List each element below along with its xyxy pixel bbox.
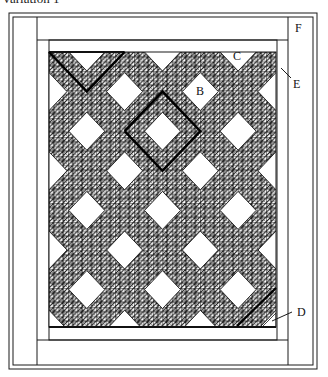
quilt-center	[31, 33, 294, 348]
label-e-leader-line	[281, 68, 291, 78]
label-c: C	[233, 49, 241, 63]
quilt-diagram: BCDEF	[0, 0, 328, 377]
label-d: D	[297, 305, 306, 319]
label-f: F	[295, 21, 302, 35]
label-b: B	[196, 84, 204, 98]
label-e: E	[293, 77, 300, 91]
